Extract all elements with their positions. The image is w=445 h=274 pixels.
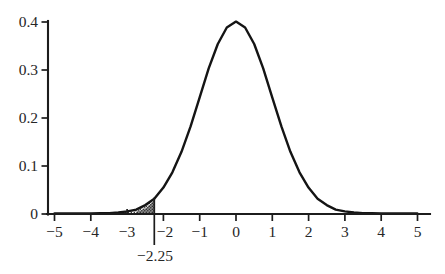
y-tick-label-0.4: 0.4 [19, 13, 39, 30]
x-tick-label--1: −1 [191, 223, 208, 240]
x-tick-label-1: 1 [268, 223, 276, 240]
y-tick-label-0.2: 0.2 [19, 109, 38, 126]
critical-value-label: −2.25 [137, 247, 173, 264]
x-tick-label--4: −4 [83, 223, 100, 240]
plot-canvas: 0.4 0.3 0.2 0.1 0 −5 −4 −3 −2 −1 [0, 0, 445, 274]
x-tick-label--2: −2 [157, 223, 174, 240]
x-tick-label-0: 0 [232, 223, 240, 240]
x-tick-label-2: 2 [305, 223, 313, 240]
normal-distribution-figure: 0.4 0.3 0.2 0.1 0 −5 −4 −3 −2 −1 [0, 0, 445, 274]
y-tick-label-0.1: 0.1 [19, 157, 38, 174]
x-tick-label-4: 4 [377, 223, 385, 240]
x-tick-label-5: 5 [414, 223, 422, 240]
x-tick-label--5: −5 [46, 223, 63, 240]
x-tick-label--3: −3 [119, 223, 136, 240]
y-tick-label-0.3: 0.3 [19, 61, 39, 78]
x-tick-label-3: 3 [341, 223, 349, 240]
y-tick-label-0: 0 [30, 205, 38, 222]
